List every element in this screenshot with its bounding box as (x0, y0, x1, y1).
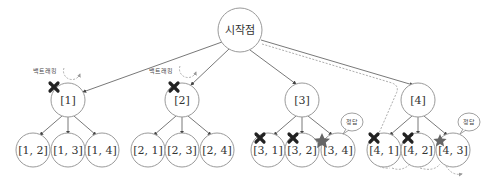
svg-text:[4]: [4] (410, 94, 426, 107)
svg-text:[1]: [1] (60, 94, 76, 107)
node-2-3: [2, 3] (165, 133, 199, 167)
node-3-4: [3, 4] (321, 133, 355, 167)
svg-text:[3, 2]: [3, 2] (287, 144, 317, 157)
svg-text:[2, 3]: [2, 3] (167, 144, 197, 157)
backtrack-arrow-icon (179, 66, 196, 78)
answer-bubble-2: 정답 (458, 113, 480, 134)
root-node: 시작점 (218, 8, 262, 52)
svg-text:[1, 3]: [1, 3] (53, 144, 83, 157)
node-2: [2] (165, 83, 199, 117)
node-1-3: [1, 3] (51, 133, 85, 167)
answer-bubble-1: 정답 (341, 113, 363, 134)
backtracking-tree-diagram: 시작점 [1] [2] [3] [4] 백트래킹 백트래킹 [1, 2] [1,… (0, 0, 498, 184)
svg-text:정답: 정답 (463, 118, 475, 125)
svg-text:[1, 4]: [1, 4] (87, 144, 117, 157)
svg-text:정답: 정답 (346, 118, 358, 125)
tree-canvas: 시작점 [1] [2] [3] [4] 백트래킹 백트래킹 [1, 2] [1,… (0, 0, 498, 184)
svg-text:백트래킹: 백트래킹 (149, 67, 173, 75)
svg-text:[1, 2]: [1, 2] (18, 144, 48, 157)
node-3-1: [3, 1] (251, 133, 285, 167)
node-3: [3] (285, 83, 319, 117)
svg-text:[3, 4]: [3, 4] (323, 144, 353, 157)
node-2-1: [2, 1] (131, 133, 165, 167)
svg-text:[2]: [2] (174, 94, 190, 107)
svg-text:시작점: 시작점 (225, 24, 255, 37)
backtrack-arrow-icon (63, 68, 80, 80)
svg-text:[3, 1]: [3, 1] (253, 144, 283, 157)
node-3-2: [3, 2] (285, 133, 319, 167)
backtrack-annotation-2: 백트래킹 (149, 66, 196, 78)
svg-text:[3]: [3] (294, 94, 310, 107)
node-4: [4] (401, 83, 435, 117)
backtrack-annotation-1: 백트래킹 (33, 67, 80, 80)
node-2-4: [2, 4] (200, 133, 234, 167)
svg-text:[4, 1]: [4, 1] (369, 144, 399, 157)
svg-text:[4, 3]: [4, 3] (438, 144, 468, 157)
node-1-2: [1, 2] (16, 133, 50, 167)
svg-text:백트래킹: 백트래킹 (33, 67, 57, 75)
svg-text:[2, 4]: [2, 4] (202, 144, 232, 157)
node-1-4: [1, 4] (85, 133, 119, 167)
svg-text:[4, 2]: [4, 2] (403, 144, 433, 157)
svg-text:[2, 1]: [2, 1] (133, 144, 163, 157)
child-edges (40, 116, 447, 135)
